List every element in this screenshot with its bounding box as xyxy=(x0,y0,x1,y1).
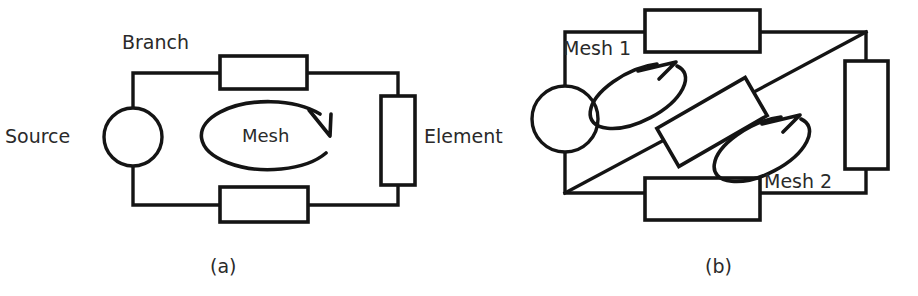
panel-b-top-right-wire xyxy=(760,32,866,61)
label-element: Element xyxy=(424,127,503,146)
panel-b-source-circle xyxy=(532,86,598,152)
panel-a-bottom-wire xyxy=(133,167,220,205)
panel-a-bottom-right-wire xyxy=(308,184,398,205)
label-mesh: Mesh xyxy=(242,127,289,145)
caption-panel-a: (a) xyxy=(210,257,236,276)
panel-b-diagonal-resistor xyxy=(657,77,767,166)
caption-panel-b: (b) xyxy=(705,257,732,276)
label-mesh-1: Mesh 1 xyxy=(563,39,631,58)
circuit-figure: Branch Source Element Mesh Mesh 1 Mesh 2… xyxy=(0,0,918,296)
panel-a-right-element xyxy=(381,96,415,185)
panel-a-top-wire xyxy=(133,73,220,108)
panel-b-top-resistor xyxy=(645,10,760,52)
label-mesh-2: Mesh 2 xyxy=(764,172,832,191)
panel-a-top-right-wire xyxy=(307,73,398,97)
panel-a-top-resistor xyxy=(220,56,307,89)
label-source: Source xyxy=(5,127,70,146)
panel-b-bottom-resistor xyxy=(645,178,760,220)
panel-b-right-element xyxy=(845,61,888,169)
panel-a-source-circle xyxy=(104,108,162,166)
label-branch: Branch xyxy=(122,33,189,52)
panel-a-bottom-resistor xyxy=(220,187,308,222)
